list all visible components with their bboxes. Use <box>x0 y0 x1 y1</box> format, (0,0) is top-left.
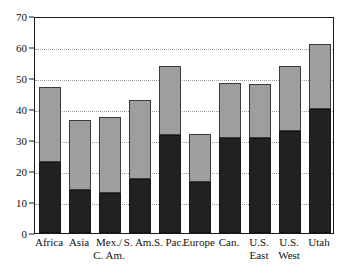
bar-segment-upper <box>219 83 241 139</box>
bar-segment-lower <box>279 131 301 233</box>
bar <box>69 120 91 233</box>
bars-layer <box>35 18 333 233</box>
bar <box>249 84 271 233</box>
bar-segment-lower <box>99 193 121 233</box>
bar-segment-upper <box>99 117 121 193</box>
bar <box>159 66 181 233</box>
bar <box>39 87 61 233</box>
bar <box>279 66 301 233</box>
x-tick-label: U.S. East <box>249 236 269 261</box>
bar <box>189 134 211 233</box>
x-tick-label: Utah <box>308 236 329 249</box>
y-tick-label: 60 <box>16 43 27 54</box>
x-tick-label: Africa <box>35 236 63 249</box>
y-tick-label: 10 <box>16 198 27 209</box>
bar-segment-upper <box>39 87 61 161</box>
x-tick-label: Asia <box>69 236 89 249</box>
y-axis: 010203040506070 <box>0 17 34 234</box>
bar-segment-lower <box>189 182 211 233</box>
bar-segment-upper <box>279 66 301 131</box>
y-tick-label: 50 <box>16 74 27 85</box>
y-tick-label: 40 <box>16 105 27 116</box>
y-tick-label: 0 <box>22 229 28 240</box>
bar <box>309 44 331 233</box>
bar-segment-upper <box>159 66 181 136</box>
bar-segment-lower <box>69 190 91 233</box>
x-tick-label: Can. <box>219 236 239 249</box>
bar-segment-upper <box>69 120 91 190</box>
bar-segment-lower <box>39 162 61 233</box>
bar <box>99 117 121 233</box>
stacked-bar-chart: 010203040506070 AfricaAsiaMex./ C. Am.S.… <box>0 0 352 277</box>
x-tick-label: S. Am. <box>124 236 154 249</box>
bar-segment-upper <box>249 84 271 138</box>
x-tick-label: U.S. West <box>278 236 300 261</box>
x-tick-label: Europe <box>183 236 215 249</box>
bar-segment-lower <box>219 138 241 233</box>
bar-segment-lower <box>129 179 151 233</box>
x-tick-label: S. Pac. <box>154 236 184 249</box>
bar-segment-lower <box>249 138 271 233</box>
bar-segment-upper <box>189 134 211 182</box>
bar-segment-lower <box>159 135 181 233</box>
y-tick-label: 20 <box>16 167 27 178</box>
bar-segment-upper <box>309 44 331 109</box>
plot-area <box>34 17 334 234</box>
y-tick-label: 70 <box>16 12 27 23</box>
bar-segment-upper <box>129 100 151 179</box>
bar-segment-lower <box>309 109 331 233</box>
bar <box>129 100 151 233</box>
y-tick-label: 30 <box>16 136 27 147</box>
x-tick-label: Mex./ C. Am. <box>93 236 124 261</box>
x-axis-labels: AfricaAsiaMex./ C. Am.S. Am.S. Pac.Europ… <box>34 236 334 276</box>
bar <box>219 83 241 233</box>
